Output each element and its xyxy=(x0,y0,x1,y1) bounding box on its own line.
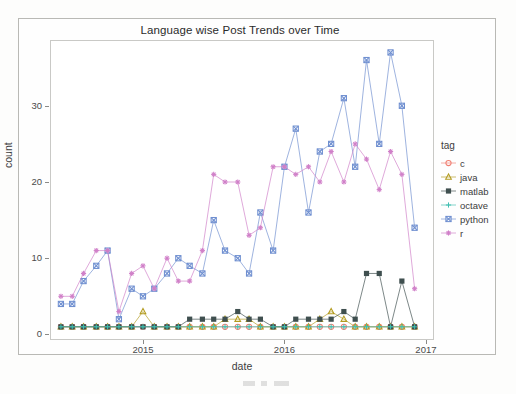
data-point-square xyxy=(306,317,311,322)
y-tick-mark xyxy=(45,182,49,183)
data-point-asterisk xyxy=(94,248,99,253)
screenshot-root: Language wise Post Trends over Time coun… xyxy=(0,0,516,394)
x-tick-mark xyxy=(284,340,285,344)
data-point-square xyxy=(211,317,216,322)
x-tick-label: 2016 xyxy=(264,344,304,355)
legend-item-octave[interactable]: octave xyxy=(441,198,511,212)
data-point-asterisk xyxy=(329,149,334,154)
data-point-square-cross xyxy=(187,263,192,268)
data-point-square-cross xyxy=(235,256,240,261)
legend-item-python[interactable]: python xyxy=(441,212,511,226)
data-point-square xyxy=(293,317,298,322)
data-point-asterisk xyxy=(341,179,346,184)
data-point-square-cross xyxy=(94,263,99,268)
data-point-asterisk xyxy=(306,164,311,169)
data-point-asterisk xyxy=(70,294,75,299)
legend-entries: cjavamatlaboctavepythonr xyxy=(441,156,511,240)
legend-key-triangle-icon xyxy=(441,170,456,184)
data-point-asterisk xyxy=(105,248,110,253)
data-point-asterisk xyxy=(282,164,287,169)
data-point-square xyxy=(364,271,369,276)
data-point-square xyxy=(399,278,404,283)
data-point-square-cross xyxy=(129,286,134,291)
data-point-asterisk xyxy=(246,233,251,238)
legend-label: r xyxy=(460,228,463,239)
data-point-asterisk xyxy=(176,278,181,283)
legend-key-square-icon xyxy=(441,184,456,198)
x-axis-label: date xyxy=(50,360,434,372)
data-point-square xyxy=(341,309,346,314)
data-point-square xyxy=(235,309,240,314)
data-point-asterisk xyxy=(164,256,169,261)
series-r xyxy=(58,141,417,314)
data-point-asterisk xyxy=(399,172,404,177)
scan-artifact xyxy=(243,381,289,386)
data-point-asterisk xyxy=(353,141,358,146)
x-tick-label: 2015 xyxy=(123,344,163,355)
data-point-asterisk xyxy=(446,230,451,235)
y-tick-mark xyxy=(45,258,49,259)
data-point-asterisk xyxy=(364,157,369,162)
series-python xyxy=(58,50,417,322)
data-point-asterisk xyxy=(377,187,382,192)
data-point-asterisk xyxy=(152,286,157,291)
data-point-asterisk xyxy=(235,179,240,184)
y-tick-label: 0 xyxy=(16,328,42,339)
legend-item-r[interactable]: r xyxy=(441,226,511,240)
series-line-r xyxy=(61,144,415,312)
data-point-asterisk xyxy=(116,309,121,314)
y-tick-label: 30 xyxy=(16,100,42,111)
data-point-asterisk xyxy=(187,278,192,283)
legend: tag cjavamatlaboctavepythonr xyxy=(441,140,511,240)
data-point-asterisk xyxy=(258,225,263,230)
legend-item-c[interactable]: c xyxy=(441,156,511,170)
data-point-square xyxy=(353,317,358,322)
data-point-square xyxy=(200,317,205,322)
data-point-square-cross xyxy=(329,141,334,146)
legend-label: matlab xyxy=(460,186,489,197)
plot-panel xyxy=(50,40,434,340)
y-tick-label: 10 xyxy=(16,252,42,263)
legend-label: java xyxy=(460,172,477,183)
legend-key-asterisk-icon xyxy=(441,226,456,240)
series-line-python xyxy=(61,52,415,319)
legend-title: tag xyxy=(441,140,511,151)
x-tick-mark xyxy=(426,340,427,344)
x-tick-label: 2017 xyxy=(406,344,446,355)
data-point-square-cross xyxy=(176,256,181,261)
legend-item-java[interactable]: java xyxy=(441,170,511,184)
data-point-asterisk xyxy=(222,179,227,184)
data-point-square xyxy=(329,317,334,322)
y-tick-label: 20 xyxy=(16,176,42,187)
data-point-square xyxy=(317,317,322,322)
data-point-square xyxy=(246,317,251,322)
y-tick-mark xyxy=(45,106,49,107)
legend-label: python xyxy=(460,214,489,225)
data-point-square xyxy=(187,317,192,322)
data-point-asterisk xyxy=(200,248,205,253)
data-point-square-cross xyxy=(164,271,169,276)
data-point-square-cross xyxy=(140,294,145,299)
data-point-asterisk xyxy=(388,149,393,154)
data-point-asterisk xyxy=(271,164,276,169)
legend-key-plus-icon xyxy=(441,198,456,212)
data-point-square xyxy=(377,271,382,276)
x-tick-mark xyxy=(143,340,144,344)
data-point-asterisk xyxy=(412,286,417,291)
data-point-asterisk xyxy=(293,172,298,177)
data-point-square xyxy=(222,317,227,322)
data-point-asterisk xyxy=(81,271,86,276)
legend-key-square-cross-icon xyxy=(441,212,456,226)
data-point-square xyxy=(258,317,263,322)
data-point-asterisk xyxy=(211,172,216,177)
data-point-asterisk xyxy=(58,294,63,299)
chart-title: Language wise Post Trends over Time xyxy=(60,24,420,36)
legend-label: octave xyxy=(460,200,488,211)
data-point-square xyxy=(446,188,451,193)
data-point-triangle xyxy=(446,174,452,179)
legend-key-circle-icon xyxy=(441,156,456,170)
data-point-square-cross xyxy=(81,278,86,283)
legend-item-matlab[interactable]: matlab xyxy=(441,184,511,198)
legend-label: c xyxy=(460,158,465,169)
plot-series-area xyxy=(51,41,433,339)
